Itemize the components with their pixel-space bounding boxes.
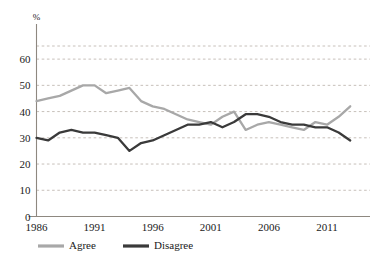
y-tick-label: 10 xyxy=(20,184,32,196)
series-line-agree xyxy=(37,85,351,130)
data-series xyxy=(37,85,351,151)
line-chart: 0102030405060 198619911996200120062011 %… xyxy=(0,0,375,258)
x-tick-label: 2011 xyxy=(316,221,338,233)
legend-label-disagree: Disagree xyxy=(154,239,193,251)
y-tick-label: 40 xyxy=(20,106,32,118)
y-tick-label: 60 xyxy=(20,53,32,65)
y-tick-label: 50 xyxy=(20,79,32,91)
x-tick-label: 1991 xyxy=(84,221,106,233)
chart-canvas: 0102030405060 198619911996200120062011 %… xyxy=(0,0,375,258)
percent-unit-label: % xyxy=(33,12,41,22)
gridlines xyxy=(37,46,371,190)
y-tick-label: 20 xyxy=(20,158,32,170)
legend-label-agree: Agree xyxy=(69,239,96,251)
x-tick-label: 2006 xyxy=(258,221,281,233)
y-tick-label: 30 xyxy=(20,132,32,144)
y-axis-unit-label: % xyxy=(33,12,41,22)
x-tick-label: 2001 xyxy=(200,221,222,233)
x-tick-label: 1986 xyxy=(26,221,49,233)
chart-legend: AgreeDisagree xyxy=(38,239,193,251)
x-tick-label: 1996 xyxy=(142,221,165,233)
y-tick-labels: 0102030405060 xyxy=(20,53,32,222)
x-tick-labels: 198619911996200120062011 xyxy=(26,221,338,233)
